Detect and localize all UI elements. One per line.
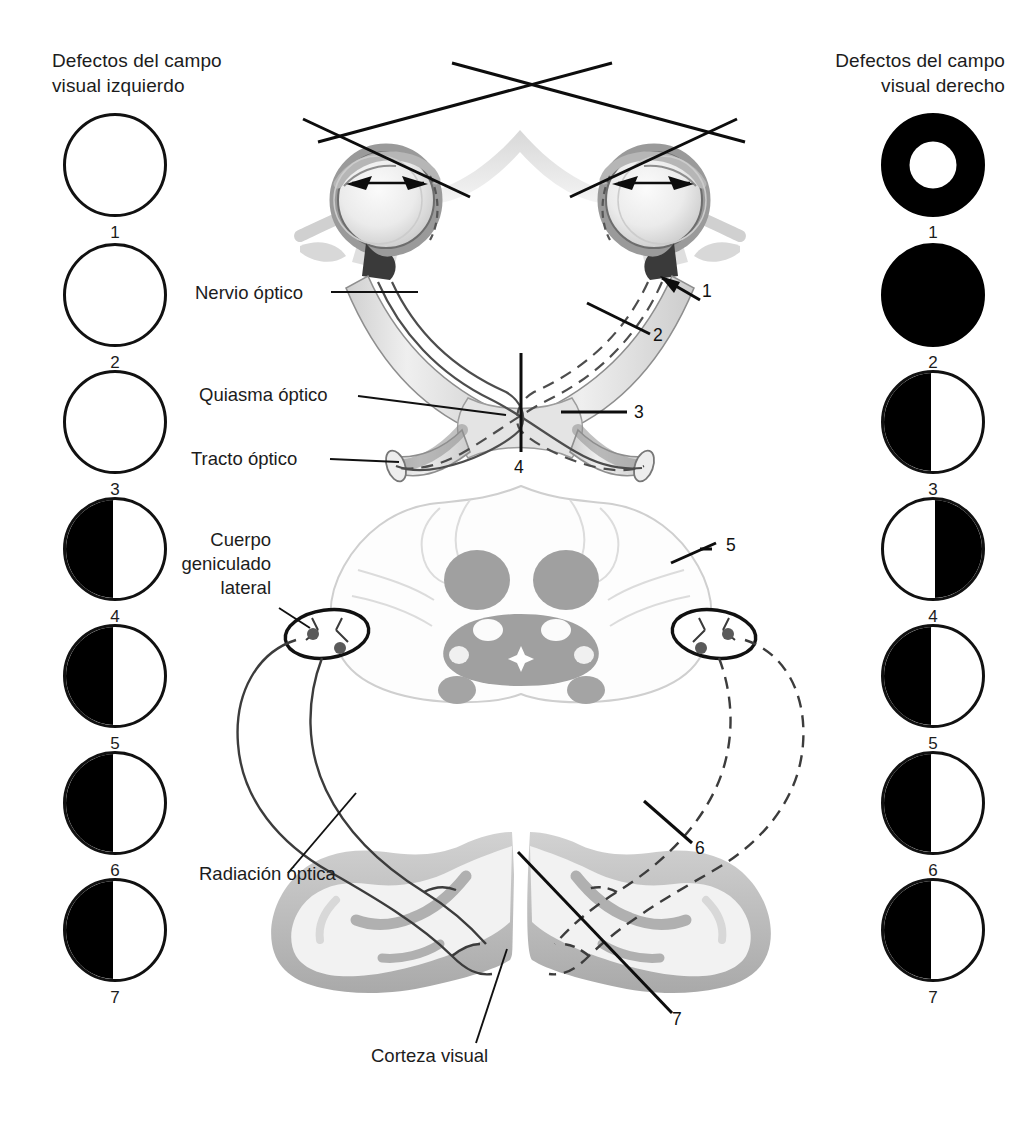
- field-half-left: [882, 751, 931, 855]
- field-half-left: [882, 624, 931, 728]
- left-field-3[interactable]: 3: [50, 370, 180, 500]
- right-field-2[interactable]: 2: [868, 243, 998, 373]
- field-disc: [63, 751, 167, 855]
- label-optic-radiation: Radiación óptica: [199, 862, 336, 886]
- field-disc: [63, 370, 167, 474]
- left-field-column-header: Defectos del campo visual izquierdo: [52, 48, 267, 98]
- left-field-5[interactable]: 5: [50, 624, 180, 754]
- field-disc: [63, 878, 167, 982]
- lesion-marker-label-3: 3: [634, 402, 644, 423]
- midbrain-cross-section: [331, 486, 712, 704]
- field-half-right: [935, 497, 984, 601]
- right-field-3[interactable]: 3: [868, 370, 998, 500]
- right-field-1[interactable]: 1: [868, 113, 998, 243]
- field-half-left: [882, 370, 931, 474]
- right-field-5[interactable]: 5: [868, 624, 998, 754]
- right-field-4[interactable]: 4: [868, 497, 998, 627]
- lesion-marker-label-4: 4: [514, 457, 524, 478]
- field-disc: [881, 243, 985, 347]
- lesion-marker-label-6: 6: [695, 838, 705, 859]
- lesion-marker-label-2: 2: [653, 325, 663, 346]
- left-eyeball: [334, 148, 438, 280]
- label-visual-cortex: Corteza visual: [371, 1044, 488, 1068]
- left-field-7[interactable]: 7: [50, 878, 180, 1008]
- label-optic-nerve: Nervio óptico: [195, 281, 303, 305]
- left-field-1[interactable]: 1: [50, 113, 180, 243]
- field-disc: [63, 113, 167, 217]
- field-half-left: [64, 878, 113, 982]
- field-number: 7: [50, 988, 180, 1008]
- field-disc: [881, 878, 985, 982]
- field-disc: [881, 751, 985, 855]
- right-field-7[interactable]: 7: [868, 878, 998, 1008]
- field-half-left: [64, 751, 113, 855]
- field-disc: [881, 113, 985, 217]
- field-number: 1: [868, 223, 998, 243]
- field-half-left: [882, 878, 931, 982]
- left-field-2[interactable]: 2: [50, 243, 180, 373]
- field-disc: [881, 370, 985, 474]
- right-field-6[interactable]: 6: [868, 751, 998, 881]
- field-number: 1: [50, 223, 180, 243]
- field-disc: [63, 624, 167, 728]
- right-field-column-header: Defectos del campo visual derecho: [790, 48, 1005, 98]
- field-disc: [881, 624, 985, 728]
- label-optic-chiasm: Quiasma óptico: [199, 383, 328, 407]
- label-lateral-geniculate-body: Cuerpo geniculado lateral: [125, 528, 271, 600]
- figure-canvas: Defectos del campo visual izquierdo Defe…: [0, 0, 1031, 1122]
- field-half-left: [64, 497, 113, 601]
- field-half-left: [64, 624, 113, 728]
- lesion-marker-label-5: 5: [726, 535, 736, 556]
- field-disc: [881, 497, 985, 601]
- field-disc: [63, 243, 167, 347]
- right-eyeball: [602, 148, 706, 280]
- left-field-6[interactable]: 6: [50, 751, 180, 881]
- lesion-marker-label-1: 1: [702, 281, 712, 302]
- lesion-marker-label-7: 7: [672, 1009, 682, 1030]
- field-number: 7: [868, 988, 998, 1008]
- label-optic-tract: Tracto óptico: [191, 447, 297, 471]
